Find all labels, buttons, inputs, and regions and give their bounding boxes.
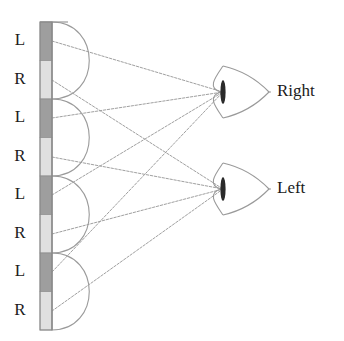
ray-to-right-2 xyxy=(52,92,223,195)
lens-arc-3 xyxy=(52,253,89,330)
pixel-segment-r-3 xyxy=(40,138,52,177)
pixel-label-r-3: R xyxy=(14,146,26,165)
viewzone-label-right: Right xyxy=(277,81,315,100)
pixel-label-l-4: L xyxy=(15,184,25,203)
pixel-segment-l-0 xyxy=(40,22,52,61)
ray-to-left-0 xyxy=(52,80,223,189)
viewzone-horn-right xyxy=(223,163,269,215)
viewzone-focus-bar xyxy=(220,177,225,201)
pixel-label-r-5: R xyxy=(14,223,26,242)
viewzone-focus-bar xyxy=(220,80,225,104)
pixel-column-strip xyxy=(40,22,52,330)
diagram-canvas: LRLRLRLR RightLeft xyxy=(0,0,344,341)
pixel-label-r-7: R xyxy=(14,300,26,319)
pixel-segment-l-4 xyxy=(40,176,52,215)
pixel-segment-l-6 xyxy=(40,253,52,292)
pixel-segment-r-5 xyxy=(40,215,52,254)
right-eye-viewzone: Right xyxy=(213,66,315,118)
lens-arc-2 xyxy=(52,176,89,253)
pixel-segment-r-7 xyxy=(40,292,52,331)
pixel-label-r-1: R xyxy=(14,69,26,88)
ray-bundle xyxy=(52,41,223,311)
ray-to-right-0 xyxy=(52,41,223,92)
pixel-label-group: LRLRLRLR xyxy=(14,30,26,319)
pixel-label-l-2: L xyxy=(15,107,25,126)
viewzone-group: RightLeft xyxy=(213,66,315,215)
lens-arc-1 xyxy=(52,99,89,176)
pixel-segment-l-2 xyxy=(40,99,52,138)
left-eye-viewzone: Left xyxy=(213,163,305,215)
viewzone-label-left: Left xyxy=(277,178,306,197)
ray-to-left-3 xyxy=(52,189,223,311)
ray-to-left-2 xyxy=(52,189,223,234)
viewzone-horn-right xyxy=(223,66,269,118)
lenticular-diagram: LRLRLRLR RightLeft xyxy=(0,0,344,341)
pixel-label-l-0: L xyxy=(15,30,25,49)
ray-to-right-3 xyxy=(52,92,223,272)
pixel-label-l-6: L xyxy=(15,261,25,280)
pixel-segment-r-1 xyxy=(40,61,52,100)
lens-arc-0 xyxy=(52,22,89,99)
